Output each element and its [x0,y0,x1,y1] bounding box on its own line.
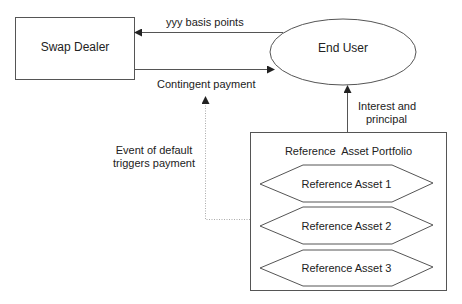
portfolio-title: Reference Asset Portfolio [250,145,447,158]
end-user-label: End User [270,42,416,55]
default-trigger-label-line2: triggers payment [108,157,200,170]
reference-asset-1-label: Reference Asset 1 [260,178,433,191]
reference-asset-2-label: Reference Asset 2 [260,220,433,233]
interest-principal-label-line1: Interest and [358,100,416,113]
default-trigger-dotted-line [206,97,251,220]
default-trigger-label-line1: Event of default [108,144,200,157]
reference-asset-3-label: Reference Asset 3 [260,262,433,275]
premium-label: yyy basis points [166,16,244,29]
interest-principal-label-line2: principal [366,113,407,126]
contingent-payment-label: Contingent payment [157,78,255,91]
swap-dealer-label: Swap Dealer [15,41,135,54]
